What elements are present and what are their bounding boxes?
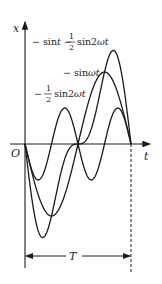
t-axis-label: t (144, 150, 149, 163)
period-label: T (69, 250, 78, 263)
origin-label: O (11, 147, 20, 160)
svg-text:sin2ωt: sin2ωt (54, 88, 86, 99)
svg-text:− sint −: − sint − (32, 36, 72, 47)
svg-text:sin2ωt: sin2ωt (77, 36, 109, 47)
y-axis-label: x (13, 22, 20, 35)
waveform-diagram: x t O T − sint − 1 2 sin2ωt − sinωt − 1 … (0, 0, 162, 284)
label-fundamental: − sinωt (63, 67, 100, 78)
svg-text:2: 2 (46, 95, 51, 104)
label-combined: − sint − 1 2 sin2ωt (32, 32, 109, 52)
svg-text:1: 1 (69, 32, 74, 41)
label-second-harmonic: − 1 2 sin2ωt (34, 84, 86, 104)
svg-text:2: 2 (69, 43, 74, 52)
svg-text:−: − (34, 88, 42, 99)
svg-text:1: 1 (46, 84, 51, 93)
svg-text:− sinωt: − sinωt (63, 67, 100, 78)
